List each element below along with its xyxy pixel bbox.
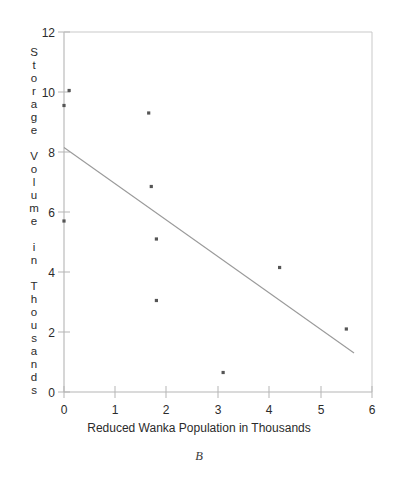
scatter-point [222, 371, 225, 374]
figure-caption: B [0, 449, 398, 464]
scatter-marker-group [62, 89, 348, 374]
regression-trend-line [64, 148, 354, 354]
axis-frame [64, 32, 372, 392]
scatter-point [147, 111, 150, 114]
scatter-point [68, 89, 71, 92]
scatter-point [62, 104, 65, 107]
scatter-plot-figure: S t o r a g e V o l u m e i n T h o u s … [0, 0, 398, 480]
x-axis-title: Reduced Wanka Population in Thousands [0, 421, 398, 435]
scatter-point [155, 299, 158, 302]
plot-canvas [0, 0, 398, 480]
scatter-point [155, 237, 158, 240]
scatter-point [62, 219, 65, 222]
scatter-point [150, 185, 153, 188]
scatter-point [278, 266, 281, 269]
scatter-point [345, 327, 348, 330]
